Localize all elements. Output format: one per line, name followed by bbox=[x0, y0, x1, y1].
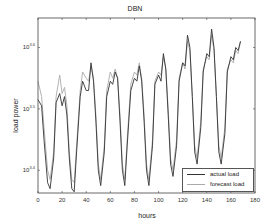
x-tick-label: 100 bbox=[154, 197, 165, 203]
legend-item-forecast: forecast load bbox=[183, 179, 253, 189]
legend-swatch-actual bbox=[187, 174, 205, 175]
x-tick-label: 40 bbox=[83, 197, 90, 203]
legend-label-forecast: forecast load bbox=[210, 181, 244, 187]
x-tick-label: 180 bbox=[250, 197, 261, 203]
x-tick-label: 60 bbox=[107, 197, 114, 203]
forecast-load-line bbox=[38, 35, 241, 182]
x-axis-label: hours bbox=[38, 212, 256, 219]
x-tick-label: 20 bbox=[59, 197, 66, 203]
x-tick-label: 140 bbox=[202, 197, 213, 203]
legend-label-actual: actual load bbox=[210, 171, 239, 177]
x-tick-label: 120 bbox=[178, 197, 189, 203]
legend-item-actual: actual load bbox=[183, 169, 253, 179]
legend-swatch-forecast bbox=[187, 184, 205, 185]
y-tick-label: 103.4 bbox=[23, 165, 36, 173]
x-tick-label: 0 bbox=[36, 197, 40, 203]
x-tick-label: 160 bbox=[226, 197, 237, 203]
x-tick-label: 80 bbox=[131, 197, 138, 203]
chart-figure: DBN 020406080100120140160180103.4103.510… bbox=[0, 0, 270, 224]
y-tick-label: 103.6 bbox=[23, 42, 36, 50]
y-axis-label: load power bbox=[12, 91, 19, 141]
legend: actual load forecast load bbox=[182, 168, 254, 192]
y-tick-label: 103.5 bbox=[23, 104, 36, 112]
